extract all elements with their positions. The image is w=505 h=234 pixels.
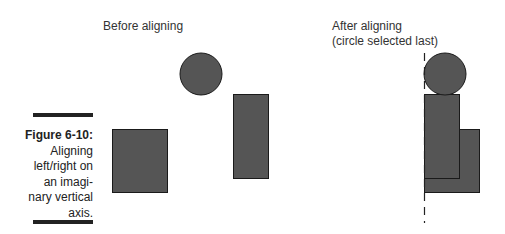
circle-shape <box>180 53 222 95</box>
before-shapes <box>113 53 269 193</box>
alignment-diagram <box>0 0 505 234</box>
tall-rect-shape <box>234 95 269 179</box>
circle-shape-aligned <box>424 53 466 95</box>
square-shape <box>113 130 168 193</box>
tall-rect-shape-aligned <box>425 95 460 179</box>
after-shapes <box>424 53 480 223</box>
